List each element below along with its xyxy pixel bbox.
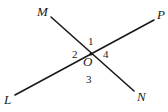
angle-label-4: 4 bbox=[103, 48, 109, 60]
intersecting-lines-diagram: M P L N O 1 2 3 4 bbox=[0, 0, 168, 112]
point-label-l: L bbox=[3, 92, 11, 107]
point-label-o: O bbox=[83, 54, 93, 69]
point-label-p: P bbox=[156, 7, 165, 22]
angle-label-2: 2 bbox=[72, 48, 78, 60]
point-label-m: M bbox=[36, 4, 49, 19]
angle-label-1: 1 bbox=[88, 35, 94, 47]
angle-label-3: 3 bbox=[86, 73, 92, 85]
point-label-n: N bbox=[136, 89, 147, 104]
